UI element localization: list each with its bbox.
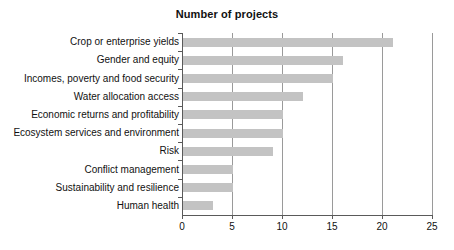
chart-title: Number of projects (0, 8, 454, 20)
x-tick-15 (332, 215, 333, 219)
x-axis-line (182, 215, 433, 216)
bar (183, 129, 283, 138)
bar (183, 92, 303, 101)
y-tick (178, 142, 182, 143)
bar (183, 183, 233, 192)
category-label: Gender and equity (0, 55, 179, 65)
y-tick (178, 124, 182, 125)
bar (183, 56, 343, 65)
y-tick (178, 51, 182, 52)
bar (183, 165, 233, 174)
y-tick (178, 179, 182, 180)
x-tick-label-15: 15 (317, 221, 347, 232)
category-label: Economic returns and profitability (0, 110, 179, 120)
category-label: Human health (0, 201, 179, 211)
x-tick-label-10: 10 (267, 221, 297, 232)
bar (183, 147, 273, 156)
x-tick-25 (432, 215, 433, 219)
category-label: Sustainability and resilience (0, 183, 179, 193)
x-tick-label-20: 20 (367, 221, 397, 232)
y-tick (178, 88, 182, 89)
x-tick-20 (382, 215, 383, 219)
x-tick-label-25: 25 (417, 221, 447, 232)
plot-area (182, 33, 432, 215)
y-tick (178, 106, 182, 107)
category-label: Incomes, poverty and food security (0, 74, 179, 84)
category-label: Water allocation access (0, 92, 179, 102)
bar (183, 201, 213, 210)
category-label: Crop or enterprise yields (0, 37, 179, 47)
bar-chart: Number of projects Crop or enterprise yi… (0, 0, 454, 250)
gridline-25 (432, 33, 433, 215)
x-tick-label-0: 0 (167, 221, 197, 232)
x-tick-label-5: 5 (217, 221, 247, 232)
y-tick (178, 160, 182, 161)
x-tick-0 (182, 215, 183, 219)
category-label: Ecosystem services and environment (0, 128, 179, 138)
y-tick (178, 197, 182, 198)
category-label: Conflict management (0, 165, 179, 175)
bar (183, 74, 333, 83)
x-tick-10 (282, 215, 283, 219)
y-tick (178, 69, 182, 70)
x-tick-5 (232, 215, 233, 219)
gridline-20 (382, 33, 383, 215)
bar (183, 38, 393, 47)
y-tick (178, 33, 182, 34)
bar (183, 110, 283, 119)
category-label: Risk (0, 146, 179, 156)
